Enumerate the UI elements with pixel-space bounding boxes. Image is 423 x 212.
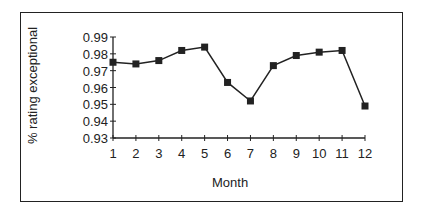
x-tick-label: 6 <box>224 146 231 161</box>
y-tick-label: 0.94 <box>83 114 108 129</box>
data-point-marker <box>132 60 139 67</box>
x-tick-label: 4 <box>178 146 185 161</box>
data-point-marker <box>293 52 300 59</box>
x-tick-label: 5 <box>201 146 208 161</box>
y-tick-label: 0.99 <box>83 30 108 45</box>
data-point-marker <box>155 57 162 64</box>
x-tick-label: 3 <box>155 146 162 161</box>
y-tick-label: 0.97 <box>83 64 108 79</box>
y-tick-label: 0.96 <box>83 81 108 96</box>
x-tick-label: 8 <box>270 146 277 161</box>
data-line <box>113 47 365 106</box>
data-point-marker <box>270 62 277 69</box>
data-point-marker <box>178 47 185 54</box>
x-tick-label: 1 <box>109 146 116 161</box>
data-point-marker <box>247 97 254 104</box>
y-axis-label: % rating exceptional <box>25 16 40 156</box>
y-tick-label: 0.98 <box>83 47 108 62</box>
data-point-marker <box>339 47 346 54</box>
x-axis-label: Month <box>212 175 248 190</box>
data-point-marker <box>316 49 323 56</box>
x-tick-label: 11 <box>335 146 349 161</box>
x-tick-label: 2 <box>132 146 139 161</box>
x-tick-label: 7 <box>247 146 254 161</box>
data-point-marker <box>362 103 369 110</box>
data-point-marker <box>110 59 117 66</box>
x-tick-label: 12 <box>358 146 372 161</box>
x-tick-label: 10 <box>312 146 326 161</box>
data-point-marker <box>224 79 231 86</box>
x-tick-label: 9 <box>293 146 300 161</box>
y-tick-label: 0.93 <box>83 131 108 146</box>
y-tick-label: 0.95 <box>83 97 108 112</box>
data-point-marker <box>201 44 208 51</box>
